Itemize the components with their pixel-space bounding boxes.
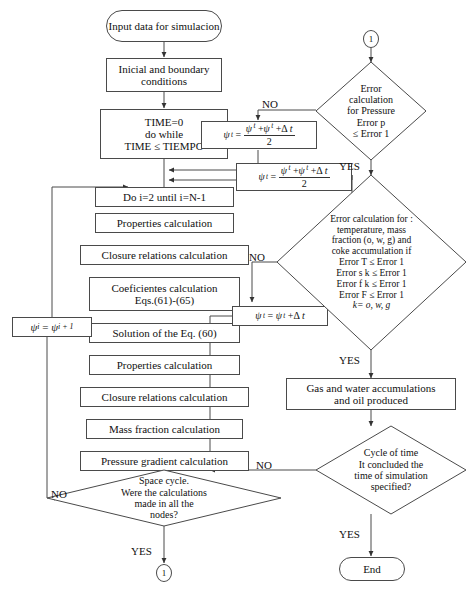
end-label: End xyxy=(363,563,381,575)
psi-average-1-formula: ψ t = ψ t +ψ t +Δ t 2 xyxy=(223,123,294,147)
multi-error-line-4: Error T ≤ Error 1 xyxy=(339,257,404,268)
multi-error-line-1: temperature, mass xyxy=(337,225,406,236)
start-label: Input data for simulacion xyxy=(109,20,220,32)
end-terminator: End xyxy=(339,557,405,581)
edge-label-no-space-cycle: NO xyxy=(51,488,67,500)
edge-label-no-pressure: NO xyxy=(262,98,278,110)
properties-calculation-2-label: Properties calculation xyxy=(117,359,213,371)
connector-top-right: 1 xyxy=(363,30,379,48)
time-cycle-decision: Cycle of time It concluded the time of s… xyxy=(316,426,466,514)
multi-error-line-5: Error s k ≤ Error 1 xyxy=(336,268,406,279)
edge-label-yes-space-cycle: YES xyxy=(131,545,152,557)
pressure-error-line-4: ≤ Error 1 xyxy=(353,128,390,139)
pressure-error-decision: Error calculation for Pressure Error p ≤… xyxy=(316,62,426,160)
start-terminator: Input data for simulacion xyxy=(106,10,222,42)
space-cycle-line-2: made in all the xyxy=(134,498,193,509)
space-cycle-line-3: nodes? xyxy=(150,509,178,520)
pressure-gradient-label: Pressure gradient calculation xyxy=(101,455,228,467)
time-cycle-line-1: It concluded the xyxy=(359,459,423,470)
accumulations-line1: Gas and water accumulations xyxy=(306,382,435,394)
closure-relations-2-label: Closure relations calculation xyxy=(102,391,228,403)
time-cycle-line-2: time of simulation xyxy=(354,470,427,481)
psi-average-1-box: ψ t = ψ t +ψ t +Δ t 2 xyxy=(201,121,317,149)
edge-label-yes-pressure: YES xyxy=(339,160,360,172)
pressure-error-line-2: for Pressure xyxy=(347,105,395,116)
coefficients-line1: Coeficientes calculation xyxy=(112,282,218,294)
multi-error-line-8: k= o, w, g xyxy=(353,300,391,311)
psi-shift-box: ψi = ψi + 1 xyxy=(12,317,92,337)
multi-error-line-6: Error f k ≤ Error 1 xyxy=(337,279,407,290)
coefficients-box: Coeficientes calculation Eqs.(61)-(65) xyxy=(89,277,240,311)
multi-error-line-0: Error calculation for : xyxy=(330,214,413,225)
pressure-gradient-box: Pressure gradient calculation xyxy=(80,451,249,471)
mass-fraction-box: Mass fraction calculation xyxy=(86,419,243,439)
flowchart-canvas: Input data for simulacion Inicial and bo… xyxy=(0,0,466,608)
edge-label-yes-multi-error: YES xyxy=(339,354,360,366)
multi-error-line-2: fraction (o, w, g) and xyxy=(332,235,412,246)
time-init-line1: TIME=0 xyxy=(145,116,184,128)
time-cycle-line-0: Cycle of time xyxy=(364,447,418,458)
pressure-error-line-0: Error xyxy=(360,83,381,94)
time-init-line2: do while xyxy=(145,128,183,140)
space-cycle-line-1: Were the calculations xyxy=(121,487,207,498)
pressure-error-line-3: Error p xyxy=(357,117,386,128)
closure-relations-2-box: Closure relations calculation xyxy=(80,387,249,407)
edge-label-yes-time-cycle: YES xyxy=(339,528,360,540)
edge-label-no-time-cycle: NO xyxy=(256,459,272,471)
connector-top-right-label: 1 xyxy=(369,34,374,44)
connector-bottom-center-label: 1 xyxy=(162,568,167,578)
solution-equation-label: Solution of the Eq. (60) xyxy=(112,327,216,339)
multi-error-line-3: coke accumulation if xyxy=(332,246,412,257)
space-cycle-decision: Space cycle. Were the calculations made … xyxy=(47,470,281,526)
solution-equation-box: Solution of the Eq. (60) xyxy=(89,323,240,343)
multi-error-decision: Error calculation for : temperature, mas… xyxy=(277,175,466,350)
properties-calculation-2-box: Properties calculation xyxy=(89,355,240,375)
accumulations-box: Gas and water accumulations and oil prod… xyxy=(286,378,456,410)
coefficients-line2: Eqs.(61)-(65) xyxy=(135,294,195,306)
space-cycle-line-0: Space cycle. xyxy=(139,475,189,486)
closure-relations-1-label: Closure relations calculation xyxy=(102,249,228,261)
multi-error-line-7: Error F ≤ Error 1 xyxy=(339,290,404,301)
time-cycle-line-3: specified? xyxy=(371,481,412,492)
edge-label-no-multi-error: NO xyxy=(249,251,265,263)
connector-bottom-center: 1 xyxy=(156,564,172,582)
closure-relations-1-box: Closure relations calculation xyxy=(80,245,249,265)
accumulations-line2: and oil produced xyxy=(334,394,408,406)
pressure-error-line-1: calculation xyxy=(349,94,393,105)
time-init-line3: TIME ≤ TIEMPO xyxy=(124,140,203,152)
properties-calculation-1-label: Properties calculation xyxy=(117,217,213,229)
properties-calculation-1-box: Properties calculation xyxy=(95,213,234,233)
initial-conditions-box: Inicial and boundary conditions xyxy=(106,58,222,92)
initial-conditions-label: Inicial and boundary conditions xyxy=(107,63,221,88)
space-loop-label: Do i=2 until i=N-1 xyxy=(123,191,206,203)
space-loop-box: Do i=2 until i=N-1 xyxy=(95,187,234,207)
psi-shift-formula: ψi = ψi + 1 xyxy=(30,321,73,333)
mass-fraction-label: Mass fraction calculation xyxy=(109,423,220,435)
